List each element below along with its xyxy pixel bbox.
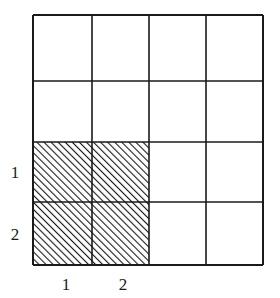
row-label-2: 2 bbox=[11, 226, 20, 243]
grid-diagram bbox=[0, 0, 280, 298]
hatched-area bbox=[33, 142, 149, 265]
col-label-1: 1 bbox=[62, 276, 71, 293]
col-label-2: 2 bbox=[119, 276, 128, 293]
shaded-region bbox=[33, 142, 149, 265]
row-label-1: 1 bbox=[11, 164, 20, 181]
